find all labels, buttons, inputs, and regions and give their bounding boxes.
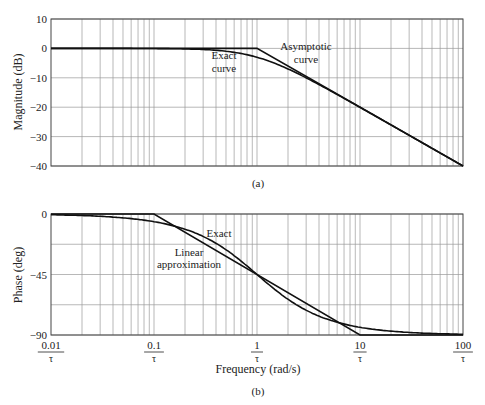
magnitude-grid bbox=[51, 19, 463, 166]
y-tick-label: −30 bbox=[30, 131, 48, 143]
x-tick-numerator: 1 bbox=[254, 339, 260, 351]
y-tick-label: −20 bbox=[30, 101, 48, 113]
asymptotic-curve-label: Asymptotic bbox=[280, 40, 331, 52]
x-tick-denominator: τ bbox=[152, 353, 156, 364]
y-tick-label: −45 bbox=[30, 269, 48, 281]
magnitude-y-tick-labels: 100−10−20−30−40 bbox=[30, 13, 48, 172]
phase-panel: 0−45−90 Phase (deg) Exact Linear approxi… bbox=[11, 208, 473, 398]
frequency-tick-labels: 0.01τ0.1τ1τ10τ100τ bbox=[38, 339, 473, 364]
x-tick-denominator: τ bbox=[49, 353, 53, 364]
y-tick-label: 10 bbox=[36, 13, 48, 25]
panel-b-caption: (b) bbox=[252, 385, 265, 398]
linear-approximation-label-2: approximation bbox=[157, 258, 222, 270]
magnitude-panel: 100−10−20−30−40 Magnitude (dB) Exact cur… bbox=[11, 13, 463, 190]
phase-y-axis-label: Phase (deg) bbox=[11, 247, 25, 303]
frequency-axis-label: Frequency (rad/s) bbox=[216, 362, 301, 376]
linear-approximation-label: Linear bbox=[175, 246, 204, 258]
x-tick-numerator: 0.01 bbox=[41, 339, 60, 351]
x-tick-numerator: 10 bbox=[355, 339, 367, 351]
x-tick-numerator: 0.1 bbox=[147, 339, 161, 351]
x-tick-numerator: 100 bbox=[455, 339, 472, 351]
exact-curve-label: Exact bbox=[211, 49, 236, 61]
exact-curve-label-2: curve bbox=[212, 62, 237, 74]
bode-plot-figure: 100−10−20−30−40 Magnitude (dB) Exact cur… bbox=[0, 0, 485, 405]
asymptotic-curve-label-2: curve bbox=[294, 53, 319, 65]
y-tick-label: 0 bbox=[42, 42, 48, 54]
y-tick-label: −40 bbox=[30, 160, 48, 172]
y-tick-label: −10 bbox=[30, 72, 48, 84]
exact-phase-label: Exact bbox=[206, 227, 231, 239]
panel-a-caption: (a) bbox=[252, 177, 265, 190]
phase-y-tick-labels: 0−45−90 bbox=[30, 208, 48, 341]
y-tick-label: 0 bbox=[42, 208, 48, 220]
x-tick-denominator: τ bbox=[358, 353, 362, 364]
x-tick-denominator: τ bbox=[461, 353, 465, 364]
magnitude-y-axis-label: Magnitude (dB) bbox=[11, 54, 25, 131]
